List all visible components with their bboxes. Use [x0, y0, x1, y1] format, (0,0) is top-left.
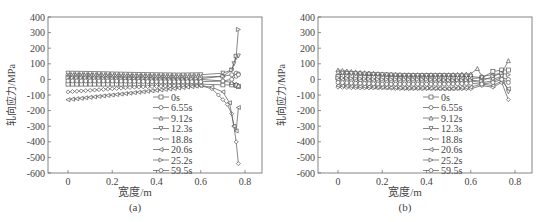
y-tick-label: 200 [30, 43, 45, 54]
circle-marker-icon [181, 80, 185, 84]
y-tick-label: -500 [297, 152, 315, 163]
circle-marker-icon [84, 79, 88, 83]
legend-item: 0s [423, 92, 450, 103]
y-tick-label: 400 [30, 12, 45, 23]
circle-marker-icon [442, 82, 446, 86]
circle-marker-icon [79, 79, 83, 83]
y-tick-label: -600 [297, 168, 315, 179]
triangle-left-marker-icon [429, 148, 433, 152]
square-marker-icon [221, 83, 225, 87]
legend-item: 0s [153, 92, 180, 103]
triangle-left-marker-icon [150, 89, 154, 93]
circle-marker-icon [119, 79, 123, 83]
legend-label: 25.2s [171, 155, 193, 166]
legend-item: 9.12s [153, 113, 193, 124]
triangle-left-marker-icon [84, 96, 88, 100]
triangle-left-marker-icon [97, 94, 101, 98]
y-tick-label: -100 [27, 90, 45, 101]
circle-marker-icon [172, 80, 176, 84]
triangle-right-marker-icon [159, 158, 163, 162]
y-tick-label: 100 [30, 58, 45, 69]
circle-marker-icon [163, 80, 167, 84]
diamond-marker-icon [119, 86, 123, 90]
circle-marker-icon [433, 82, 437, 86]
circle-marker-icon [425, 82, 429, 86]
triangle-right-marker-icon [506, 73, 510, 77]
circle-marker-icon [177, 80, 181, 84]
triangle-left-marker-icon [141, 90, 145, 94]
triangle-left-marker-icon [93, 95, 97, 99]
legend-item: 59.5s [423, 165, 463, 176]
circle-marker-icon [159, 80, 163, 84]
circle-marker-icon [88, 79, 92, 83]
chart-panel-b: 4003002001000-100-200-300-400-500-60000.… [270, 0, 540, 222]
y-axis-label: 轧向应力/MPa [275, 64, 287, 126]
triangle-left-marker-icon [75, 97, 79, 101]
legend-item: 20.6s [153, 144, 193, 155]
circle-marker-icon [106, 79, 110, 83]
diamond-marker-icon [110, 87, 114, 91]
triangle-left-marker-icon [106, 93, 110, 97]
y-tick-label: -300 [27, 121, 45, 132]
circle-marker-icon [230, 77, 234, 81]
diamond-marker-icon [88, 88, 92, 92]
circle-marker-icon [97, 79, 101, 83]
triangle-left-marker-icon [115, 93, 119, 97]
square-marker-icon [506, 68, 510, 72]
legend: 0s6.55s9.12s12.3s18.8s20.6s25.2s59.5s [153, 92, 193, 177]
y-tick-label: 300 [30, 27, 45, 38]
circle-marker-icon [199, 80, 203, 84]
diamond-marker-icon [429, 137, 433, 141]
triangle-left-marker-icon [132, 91, 136, 95]
chart-a-xlabel: 宽度/m [0, 183, 270, 199]
y-tick-label: -100 [297, 90, 315, 101]
triangle-up-marker-icon [475, 66, 479, 70]
triangle-left-marker-icon [119, 92, 123, 96]
circle-marker-icon [460, 82, 464, 86]
circle-marker-icon [389, 82, 393, 86]
triangle-left-marker-icon [159, 148, 163, 152]
diamond-marker-icon [106, 87, 110, 91]
circle-marker-icon [429, 82, 433, 86]
circle-marker-icon [394, 82, 398, 86]
triangle-up-marker-icon [506, 59, 510, 63]
triangle-left-marker-icon [101, 94, 105, 98]
circle-marker-icon [363, 81, 367, 85]
legend-label: 18.8s [441, 134, 463, 145]
circle-marker-icon [380, 82, 384, 86]
diamond-marker-icon [159, 137, 163, 141]
diamond-marker-icon [84, 89, 88, 93]
legend-item: 12.3s [153, 123, 193, 134]
circle-marker-icon [230, 73, 234, 77]
series-group [336, 59, 510, 102]
circle-marker-icon [345, 81, 349, 85]
diamond-marker-icon [97, 88, 101, 92]
circle-marker-icon [447, 82, 451, 86]
square-marker-icon [429, 95, 433, 99]
circle-marker-icon [358, 81, 362, 85]
triangle-left-marker-icon [155, 88, 159, 92]
circle-marker-icon [150, 80, 154, 84]
circle-marker-icon [371, 82, 375, 86]
legend-item: 20.6s [423, 144, 463, 155]
circle-marker-icon [159, 169, 163, 173]
diamond-marker-icon [234, 140, 238, 144]
legend-label: 12.3s [171, 123, 193, 134]
legend-item: 18.8s [423, 134, 463, 145]
legend-item: 25.2s [153, 155, 193, 166]
legend: 0s6.55s9.12s12.3s18.8s20.6s25.2s59.5s [423, 92, 463, 177]
legend-label: 6.55s [441, 102, 463, 113]
circle-marker-icon [168, 80, 172, 84]
diamond-marker-icon [75, 89, 79, 93]
diamond-marker-icon [101, 87, 105, 91]
y-tick-label: -200 [297, 105, 315, 116]
circle-marker-icon [438, 82, 442, 86]
y-tick-label: 0 [40, 74, 45, 85]
legend-item: 59.5s [153, 165, 193, 176]
series-12-3s [66, 54, 240, 77]
circle-marker-icon [398, 82, 402, 86]
triangle-left-marker-icon [221, 90, 225, 94]
circle-marker-icon [221, 79, 225, 83]
circle-marker-icon [349, 81, 353, 85]
circle-marker-icon [500, 77, 504, 81]
